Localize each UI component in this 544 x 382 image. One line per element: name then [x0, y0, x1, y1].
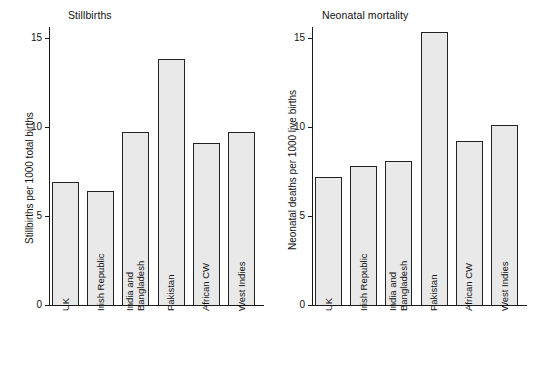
chart-panel-stillbirths: Stillbirths Stillbirths per 1000 total b… — [0, 0, 272, 382]
x-axis-category-label: Pakistan — [166, 275, 177, 311]
y-axis-tick-label: 10 — [278, 121, 305, 132]
x-axis-line — [312, 305, 527, 306]
stillbirths-neonatal-mortality-figure: Stillbirths Stillbirths per 1000 total b… — [0, 0, 544, 382]
y-axis-tick — [308, 127, 313, 128]
y-axis-tick — [308, 216, 313, 217]
x-axis-category-label: African CW — [464, 263, 475, 311]
y-axis-tick-label: 0 — [15, 299, 42, 310]
bar — [158, 59, 185, 305]
x-axis-category-label-line: African CW — [201, 263, 212, 311]
y-axis-tick-label: 0 — [278, 299, 305, 310]
x-axis-category-label: West Indies — [237, 262, 248, 311]
y-axis-tick — [45, 216, 50, 217]
x-axis-category-label-line: UK — [324, 298, 335, 311]
x-axis-category-label: Irish Republic — [359, 253, 370, 311]
y-axis-tick-label: 5 — [15, 210, 42, 221]
y-axis-line — [49, 27, 50, 306]
y-axis-tick-label: 15 — [15, 32, 42, 43]
x-axis-category-label: UK — [61, 298, 72, 311]
x-axis-category-label-line: Pakistan — [166, 275, 177, 311]
x-axis-category-label-line: Irish Republic — [359, 253, 370, 311]
x-axis-category-label-line: Pakistan — [429, 275, 440, 311]
y-axis-tick — [45, 127, 50, 128]
x-axis-line — [49, 305, 264, 306]
x-axis-category-label: India andBangladesh — [388, 261, 409, 311]
x-axis-category-label: Pakistan — [429, 275, 440, 311]
x-axis-category-label: Irish Republic — [96, 253, 107, 311]
y-axis-tick-label: 10 — [15, 121, 42, 132]
y-axis-tick — [45, 305, 50, 306]
x-axis-category-label: West Indies — [500, 262, 511, 311]
y-axis-tick-label: 5 — [278, 210, 305, 221]
x-axis-category-label-line: Irish Republic — [96, 253, 107, 311]
y-axis-label-stillbirths: Stillbirths per 1000 total births — [24, 112, 35, 244]
y-axis-tick-label: 15 — [278, 32, 305, 43]
y-axis-tick — [45, 38, 50, 39]
x-axis-category-label-line: India and — [388, 261, 399, 311]
y-axis-line — [312, 27, 313, 306]
chart-title-stillbirths: Stillbirths — [68, 9, 112, 21]
x-axis-category-label-line: UK — [61, 298, 72, 311]
x-axis-category-label: India andBangladesh — [125, 261, 146, 311]
y-axis-label-neonatal-mortality: Neonatal deaths per 1000 live births — [287, 90, 298, 250]
bar — [315, 177, 342, 305]
bar — [52, 182, 79, 305]
x-axis-category-label: UK — [324, 298, 335, 311]
bar — [421, 32, 448, 305]
y-axis-tick — [308, 38, 313, 39]
chart-panel-neonatal-mortality: Neonatal mortality Neonatal deaths per 1… — [272, 0, 544, 382]
x-axis-category-label-line: West Indies — [500, 262, 511, 311]
x-axis-category-label-line: India and — [125, 261, 136, 311]
x-axis-category-label: African CW — [201, 263, 212, 311]
x-axis-category-label-line: Bangladesh — [135, 261, 146, 311]
chart-title-neonatal-mortality: Neonatal mortality — [322, 9, 408, 21]
x-axis-category-label-line: Bangladesh — [398, 261, 409, 311]
y-axis-tick — [308, 305, 313, 306]
x-axis-category-label-line: West Indies — [237, 262, 248, 311]
x-axis-category-label-line: African CW — [464, 263, 475, 311]
